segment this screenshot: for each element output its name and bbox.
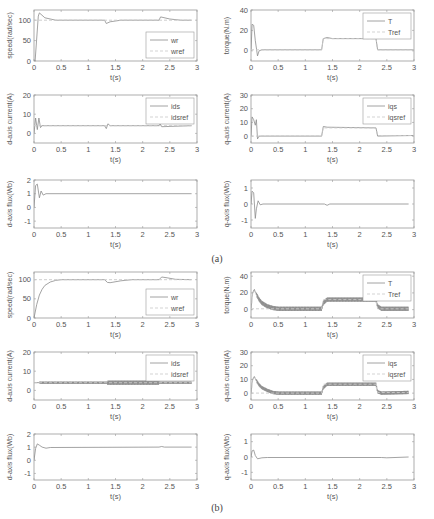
x-tick-label: 2 bbox=[358, 402, 362, 411]
x-axis-label: t(s) bbox=[327, 73, 338, 82]
y-tick-label: 0 bbox=[244, 46, 248, 55]
x-axis-label: t(s) bbox=[110, 412, 121, 421]
x-tick-label: 0 bbox=[249, 63, 253, 72]
x-tick-label: 2 bbox=[358, 320, 362, 329]
x-tick-label: 1 bbox=[86, 63, 90, 72]
x-tick-label: 2.5 bbox=[382, 402, 392, 411]
x-tick-label: 0 bbox=[249, 402, 253, 411]
x-tick-label: 1 bbox=[303, 145, 307, 154]
x-tick-label: 0.5 bbox=[56, 145, 66, 154]
y-tick-label: 0 bbox=[27, 129, 31, 138]
y-axis-label: torque(N.m) bbox=[223, 276, 231, 313]
x-tick-label: 0.5 bbox=[273, 230, 283, 239]
y-axis-label: speed(rad/sec) bbox=[6, 12, 14, 59]
y-tick-label: -1 bbox=[24, 217, 31, 226]
x-tick-label: 1 bbox=[303, 63, 307, 72]
legend: idsidsref bbox=[146, 98, 194, 124]
x-tick-label: 1 bbox=[303, 230, 307, 239]
x-tick-label: 2 bbox=[141, 482, 145, 491]
y-tick-label: 1 bbox=[244, 184, 248, 193]
x-tick-label: 0.5 bbox=[56, 63, 66, 72]
chart-a-d-axis-flux: 00.511.522.53-1012t(s)d-axis flux(Wb) bbox=[0, 170, 217, 252]
chart-a-q-axis-flux: 00.511.522.53-101t(s)q-axis flux(Wb) bbox=[217, 170, 434, 252]
x-tick-label: 1 bbox=[303, 482, 307, 491]
legend-label: ids bbox=[171, 103, 180, 110]
x-tick-label: 3 bbox=[195, 482, 199, 491]
x-tick-label: 1.5 bbox=[110, 145, 120, 154]
x-tick-label: 2.5 bbox=[165, 145, 175, 154]
y-tick-label: 1 bbox=[27, 189, 31, 198]
x-tick-label: 1.5 bbox=[110, 63, 120, 72]
x-tick-label: 2 bbox=[358, 145, 362, 154]
chart-b-speed: 00.511.522.53050100t(s)speed(rad/sec)wrw… bbox=[0, 262, 217, 342]
x-tick-label: 1.5 bbox=[327, 230, 337, 239]
x-tick-label: 1 bbox=[86, 402, 90, 411]
y-tick-label: 0 bbox=[27, 314, 31, 323]
legend-label: Tref bbox=[388, 291, 400, 298]
legend: wrwref bbox=[146, 32, 194, 58]
x-tick-label: 3 bbox=[195, 230, 199, 239]
x-tick-label: 2 bbox=[358, 63, 362, 72]
plot-area bbox=[251, 434, 414, 480]
legend-label: idsref bbox=[171, 371, 188, 378]
y-tick-label: 0 bbox=[244, 305, 248, 314]
plot-area bbox=[34, 180, 197, 228]
x-tick-label: 3 bbox=[195, 402, 199, 411]
x-tick-label: 1.5 bbox=[327, 482, 337, 491]
x-tick-label: 0 bbox=[32, 145, 36, 154]
y-tick-label: 100 bbox=[18, 275, 31, 284]
legend: iqsiqsref bbox=[363, 98, 411, 124]
legend: wrwref bbox=[146, 289, 194, 315]
y-tick-label: -1 bbox=[241, 468, 248, 477]
x-tick-label: 1.5 bbox=[110, 230, 120, 239]
y-tick-label: 10 bbox=[23, 110, 31, 119]
legend: idsidsref bbox=[146, 355, 194, 381]
x-tick-label: 0 bbox=[249, 145, 253, 154]
y-axis-label: d-axis flux(Wb) bbox=[6, 434, 14, 481]
x-tick-label: 1 bbox=[86, 320, 90, 329]
y-tick-label: 0 bbox=[27, 57, 31, 66]
y-axis-label: q-axis current(A) bbox=[223, 93, 231, 145]
legend-label: Tref bbox=[388, 29, 400, 36]
x-tick-label: 1.5 bbox=[110, 482, 120, 491]
x-tick-label: 2 bbox=[358, 230, 362, 239]
x-tick-label: 2.5 bbox=[165, 482, 175, 491]
x-tick-label: 0 bbox=[249, 320, 253, 329]
y-tick-label: 0 bbox=[244, 453, 248, 462]
x-tick-label: 2.5 bbox=[165, 230, 175, 239]
x-tick-label: 2.5 bbox=[382, 320, 392, 329]
y-tick-label: 1 bbox=[27, 443, 31, 452]
legend-label: wref bbox=[170, 48, 184, 55]
legend-label: iqs bbox=[388, 103, 397, 111]
x-tick-label: 0.5 bbox=[273, 402, 283, 411]
x-tick-label: 2 bbox=[141, 63, 145, 72]
x-tick-label: 0 bbox=[32, 63, 36, 72]
x-tick-label: 2 bbox=[358, 482, 362, 491]
x-tick-label: 0 bbox=[32, 320, 36, 329]
y-axis-label: q-axis current(A) bbox=[223, 350, 231, 402]
y-tick-label: 50 bbox=[23, 294, 31, 303]
x-tick-label: 0.5 bbox=[273, 482, 283, 491]
y-axis-label: d-axis flux(Wb) bbox=[6, 181, 14, 228]
legend: iqsiqsref bbox=[363, 355, 411, 381]
y-tick-label: 20 bbox=[240, 26, 248, 35]
y-tick-label: 0 bbox=[27, 456, 31, 465]
x-tick-label: 1 bbox=[86, 230, 90, 239]
x-tick-label: 2.5 bbox=[382, 230, 392, 239]
y-axis-label: speed(rad/sec) bbox=[6, 272, 14, 319]
x-tick-label: 2 bbox=[141, 145, 145, 154]
legend-label: wref bbox=[170, 305, 184, 312]
x-tick-label: 0 bbox=[249, 230, 253, 239]
x-axis-label: t(s) bbox=[327, 412, 338, 421]
x-tick-label: 2.5 bbox=[165, 63, 175, 72]
y-tick-label: 20 bbox=[23, 348, 31, 357]
x-tick-label: 3 bbox=[412, 320, 416, 329]
legend: TTref bbox=[363, 275, 411, 301]
x-tick-label: 2.5 bbox=[165, 402, 175, 411]
y-axis-label: q-axis flux(Wb) bbox=[223, 434, 231, 481]
x-tick-label: 0.5 bbox=[56, 402, 66, 411]
x-tick-label: 3 bbox=[412, 63, 416, 72]
y-tick-label: 20 bbox=[240, 361, 248, 370]
chart-b-q-axis-current: 00.511.522.530102030t(s)q-axis current(A… bbox=[217, 342, 434, 424]
x-tick-label: 1.5 bbox=[110, 402, 120, 411]
